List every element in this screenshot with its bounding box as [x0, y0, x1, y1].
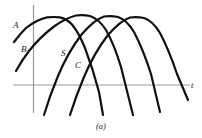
x-axis-label-t: t [191, 81, 193, 90]
curve-label-a: A [13, 21, 19, 30]
curves-group [14, 15, 188, 115]
figure-caption: (a) [0, 122, 202, 131]
plot-canvas [0, 0, 202, 138]
curve-label-c: C [75, 61, 81, 70]
curve-s [44, 16, 160, 115]
curve-label-s: S [61, 49, 66, 58]
curve-label-b: B [21, 45, 27, 54]
axes-group [13, 5, 190, 113]
figure-container: A B S C t (a) [0, 0, 202, 138]
